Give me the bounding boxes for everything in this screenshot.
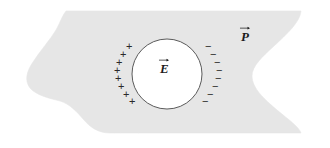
polarization-symbol: P (241, 29, 249, 44)
positive-charge-sign: + (129, 96, 135, 107)
electric-field-label: E (160, 62, 169, 75)
polarization-symbol-wrap: P (241, 30, 249, 43)
polarization-label: P (241, 30, 249, 43)
negative-charge-sign: − (202, 96, 208, 107)
electric-field-symbol-wrap: E (160, 62, 169, 75)
electric-field-symbol: E (160, 61, 169, 76)
physics-figure: + + + + + + + + − − − − − − − − E P (0, 0, 330, 148)
positive-charge-sign: + (126, 41, 132, 52)
